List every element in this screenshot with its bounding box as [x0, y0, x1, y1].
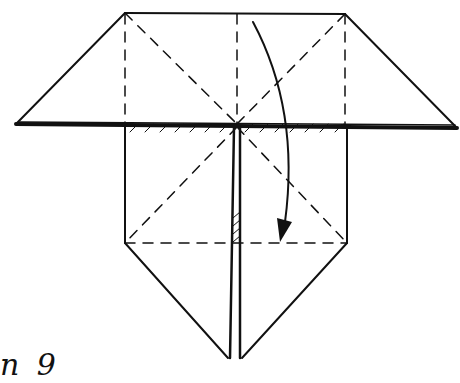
- step-label: n 9: [0, 350, 60, 380]
- right-slant-edge: [345, 14, 457, 128]
- bottom-left-edge: [125, 243, 228, 358]
- origami-diagram: [0, 0, 460, 383]
- left-slant-edge: [16, 13, 125, 124]
- bottom-right-edge: [242, 243, 347, 358]
- fold-arrow-curve: [253, 22, 289, 222]
- fold-arrow-head: [277, 218, 292, 242]
- top-edge: [125, 13, 345, 14]
